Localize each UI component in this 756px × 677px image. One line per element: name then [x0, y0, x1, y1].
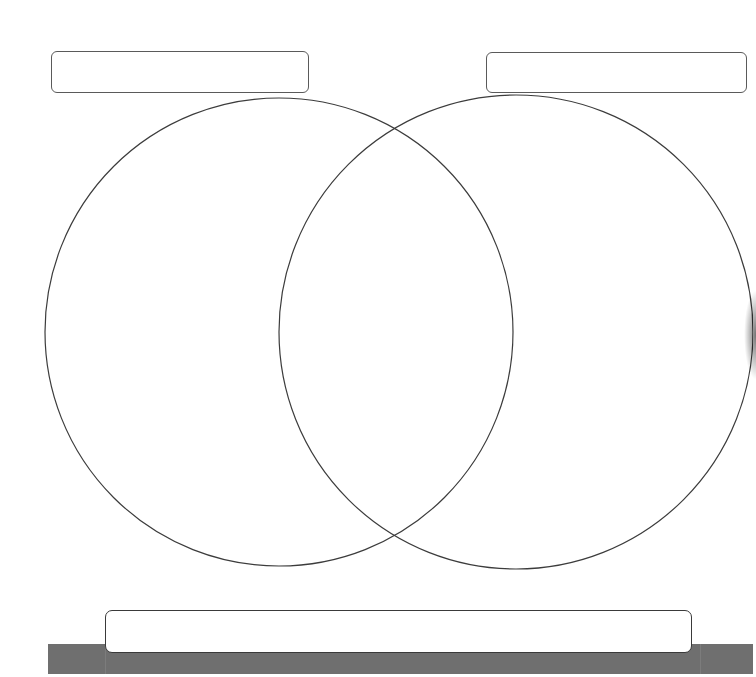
page-edge-shadow	[744, 290, 756, 380]
bottom-caption-box[interactable]	[105, 610, 692, 653]
right-set-title-box[interactable]	[486, 52, 747, 93]
bar-divider	[700, 644, 701, 674]
left-set-title-box[interactable]	[51, 51, 309, 93]
venn-circle-right	[279, 95, 753, 569]
